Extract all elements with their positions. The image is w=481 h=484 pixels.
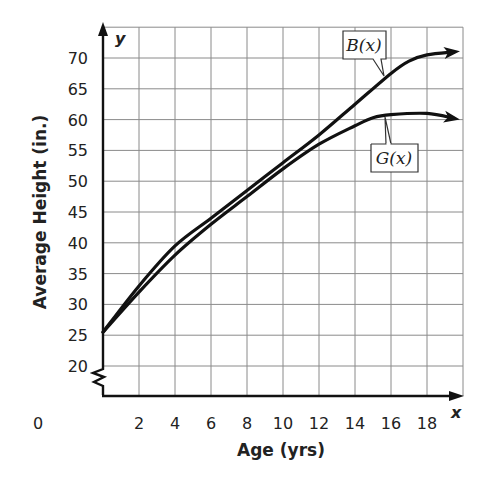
x-tick-label: 14 <box>345 414 365 433</box>
x-axis-arrow-icon <box>449 391 464 401</box>
origin-label: 0 <box>33 414 43 433</box>
x-tick-label: 12 <box>309 414 329 433</box>
y-axis-arrow-icon <box>98 22 108 36</box>
g-series-callout: G(x) <box>371 117 418 172</box>
y-axis-title: Average Height (in.) <box>30 115 50 309</box>
x-tick-label: 2 <box>134 414 144 433</box>
y-tick-label: 25 <box>68 326 88 345</box>
y-tick-label: 35 <box>68 265 88 284</box>
b-series-callout: B(x) <box>343 31 386 76</box>
x-tick-labels: 24681012141618 <box>134 414 437 433</box>
y-tick-label: 30 <box>68 295 88 314</box>
y-tick-label: 40 <box>68 234 88 253</box>
x-tick-label: 4 <box>170 414 180 433</box>
x-tick-label: 10 <box>273 414 293 433</box>
x-tick-label: 8 <box>242 414 252 433</box>
y-tick-label: 55 <box>68 141 88 160</box>
y-tick-label: 70 <box>68 49 88 68</box>
x-tick-label: 16 <box>381 414 401 433</box>
y-tick-label: 60 <box>68 111 88 130</box>
b-series-label: B(x) <box>345 35 381 55</box>
y-tick-label: 20 <box>68 357 88 376</box>
curves <box>103 47 460 332</box>
x-axis-title: Age (yrs) <box>237 440 325 460</box>
y-tick-label: 45 <box>68 203 88 222</box>
x-tick-label: 18 <box>417 414 437 433</box>
line-chart: 2025303540455055606570 24681012141618 0 … <box>0 0 481 484</box>
y-axis <box>93 30 104 395</box>
y-tick-labels: 2025303540455055606570 <box>68 49 88 376</box>
x-axis-variable: x <box>450 403 462 422</box>
x-tick-label: 6 <box>206 414 216 433</box>
y-tick-label: 50 <box>68 172 88 191</box>
series-b-line <box>103 52 454 332</box>
y-axis-variable: y <box>115 29 126 48</box>
gridlines <box>103 27 463 396</box>
y-tick-label: 65 <box>68 80 88 99</box>
g-series-label: G(x) <box>376 148 412 168</box>
